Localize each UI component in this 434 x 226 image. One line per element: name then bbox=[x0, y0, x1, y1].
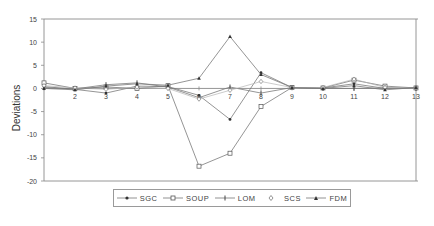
y-tick-label: 15 bbox=[29, 16, 37, 23]
sgc-marker-icon bbox=[117, 194, 137, 202]
legend-label: FDM bbox=[329, 194, 347, 203]
y-tick-label: -5 bbox=[31, 108, 37, 115]
x-tick-label: 12 bbox=[381, 93, 389, 100]
fdm-marker-icon bbox=[306, 194, 326, 202]
y-tick-label: 5 bbox=[33, 62, 37, 69]
x-tick-label: 9 bbox=[290, 93, 294, 100]
x-tick-label: 5 bbox=[166, 93, 170, 100]
x-tick-label: 11 bbox=[350, 93, 357, 100]
fdm-marker-icon bbox=[228, 35, 232, 39]
legend-label: LOM bbox=[238, 194, 256, 203]
legend-item-soup: SOUP bbox=[163, 194, 209, 203]
scs-marker-icon bbox=[261, 194, 281, 202]
legend-item-sgc: SGC bbox=[117, 194, 158, 203]
x-tick-label: 7 bbox=[228, 93, 232, 100]
x-tick-label: 3 bbox=[104, 93, 108, 100]
soup-marker-icon bbox=[163, 194, 183, 202]
scs-marker-icon bbox=[259, 79, 263, 83]
soup-marker-icon bbox=[228, 151, 232, 155]
y-tick-label: 0 bbox=[33, 85, 37, 92]
y-axis-label: Deviations bbox=[11, 85, 22, 132]
y-tick-label: 10 bbox=[29, 39, 37, 46]
legend-item-scs: SCS bbox=[261, 194, 301, 203]
sgc-marker-icon bbox=[229, 118, 232, 121]
legend-label: SGC bbox=[140, 194, 158, 203]
chart-legend: SGC SOUP LOM SCS FDM bbox=[113, 189, 351, 207]
lom-marker-icon bbox=[215, 194, 235, 202]
soup-marker-icon bbox=[259, 104, 263, 108]
soup-marker-icon bbox=[197, 164, 201, 168]
y-tick-label: -20 bbox=[27, 178, 37, 185]
x-tick-label: 2 bbox=[73, 93, 77, 100]
legend-label: SOUP bbox=[186, 194, 209, 203]
legend-item-fdm: FDM bbox=[306, 194, 347, 203]
sgc-marker-icon bbox=[105, 92, 108, 95]
x-tick-label: 13 bbox=[412, 93, 420, 100]
y-tick-label: -10 bbox=[27, 131, 37, 138]
x-tick-label: 4 bbox=[135, 93, 139, 100]
y-tick-label: -15 bbox=[27, 154, 37, 161]
legend-label: SCS bbox=[284, 194, 301, 203]
series-line-fdm bbox=[44, 37, 416, 90]
x-tick-label: 10 bbox=[319, 93, 327, 100]
legend-item-lom: LOM bbox=[215, 194, 256, 203]
